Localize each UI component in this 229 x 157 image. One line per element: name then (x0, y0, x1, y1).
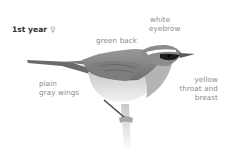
annotation-line: throat and (179, 84, 218, 93)
annotation-yellow-throat-breast: yellow throat and breast (179, 75, 218, 102)
annotation-line: gray wings (39, 88, 79, 97)
annotation-line: eyebrow (149, 24, 180, 33)
annotation-line: yellow (179, 75, 218, 84)
bird-beak (179, 53, 195, 58)
annotation-line: white (149, 15, 180, 24)
annotation-line: breast (179, 93, 218, 102)
annotation-green-back: green back (96, 36, 137, 45)
annotation-white-eyebrow: white eyebrow (149, 15, 180, 33)
annotation-line: plain (39, 79, 79, 88)
perch (121, 104, 131, 152)
eye (168, 55, 171, 58)
annotation-line: green back (96, 36, 137, 45)
annotation-plain-gray-wings: plain gray wings (39, 79, 79, 97)
bird-leg (104, 100, 124, 117)
